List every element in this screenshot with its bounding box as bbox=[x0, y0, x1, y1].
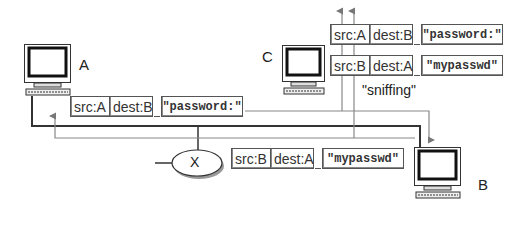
sniffing-annotation: "sniffing" bbox=[362, 82, 416, 98]
sniffed-packet-2: src:B dest:A "mypasswd" bbox=[330, 55, 503, 76]
host-b-computer-icon bbox=[414, 147, 462, 203]
packet-dest: dest:B bbox=[110, 96, 153, 117]
packet-b-to-a: src:B dest:A "mypasswd" bbox=[231, 148, 404, 169]
packet-src: src:A bbox=[330, 24, 370, 45]
packet-payload: "password:" bbox=[421, 24, 503, 45]
hub-label: X bbox=[190, 154, 199, 170]
host-b-label: B bbox=[478, 176, 488, 193]
packet-dest: dest:B bbox=[370, 24, 413, 45]
packet-src: src:A bbox=[70, 96, 110, 117]
packet-payload: "password:" bbox=[161, 96, 243, 117]
packet-a-to-b: src:A dest:B "password:" bbox=[70, 96, 243, 117]
packet-dest: dest:A bbox=[271, 148, 314, 169]
host-c-label: C bbox=[262, 48, 273, 65]
packet-src: src:B bbox=[330, 55, 370, 76]
packet-payload: "mypasswd" bbox=[421, 55, 503, 76]
packet-dest: dest:A bbox=[370, 55, 413, 76]
sniffed-packet-1: src:A dest:B "password:" bbox=[330, 24, 503, 45]
host-c-computer-icon bbox=[282, 45, 330, 101]
host-a-label: A bbox=[79, 56, 89, 73]
packet-payload: "mypasswd" bbox=[322, 148, 404, 169]
packet-src: src:B bbox=[231, 148, 271, 169]
host-a-computer-icon bbox=[24, 44, 72, 100]
